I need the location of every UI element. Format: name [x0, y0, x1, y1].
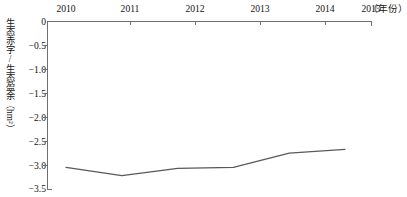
chart-figure: 生态赤字/生态盈余（hm²） 0 −0.5 −1.0 −1.5 −2.0 −2.…	[0, 0, 407, 197]
data-series-line	[66, 149, 345, 175]
plot-area	[0, 0, 407, 197]
